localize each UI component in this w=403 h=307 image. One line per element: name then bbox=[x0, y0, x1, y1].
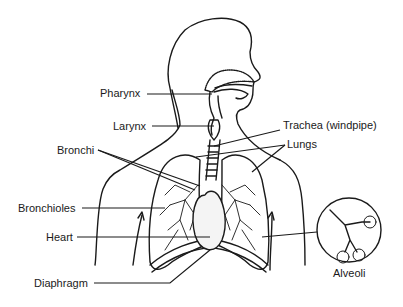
label-trachea: Trachea (windpipe) bbox=[283, 120, 377, 131]
label-heart: Heart bbox=[46, 232, 73, 243]
left-arm-inner bbox=[133, 215, 142, 265]
right-lung bbox=[218, 155, 269, 269]
bronchioles-left bbox=[160, 185, 198, 250]
label-alveoli: Alveoli bbox=[333, 268, 365, 279]
label-lungs: Lungs bbox=[287, 139, 317, 150]
alveoli-inset bbox=[317, 198, 381, 262]
respiratory-system-diagram: Pharynx Larynx Trachea (windpipe) Lungs … bbox=[0, 0, 403, 307]
label-bronchioles: Bronchioles bbox=[18, 203, 75, 214]
heart bbox=[193, 191, 225, 249]
trachea-leader bbox=[214, 130, 280, 146]
bronchioles-right bbox=[222, 185, 260, 250]
label-diaphragm: Diaphragm bbox=[34, 278, 88, 289]
larynx bbox=[208, 120, 219, 140]
alveoli-leader bbox=[262, 232, 317, 237]
label-bronchi: Bronchi bbox=[57, 145, 94, 156]
label-pharynx: Pharynx bbox=[100, 88, 140, 99]
right-arm-inner bbox=[270, 215, 272, 270]
right-shoulder bbox=[280, 160, 305, 265]
label-larynx: Larynx bbox=[113, 121, 146, 132]
pharynx-tube bbox=[209, 92, 214, 135]
tongue bbox=[214, 89, 248, 99]
